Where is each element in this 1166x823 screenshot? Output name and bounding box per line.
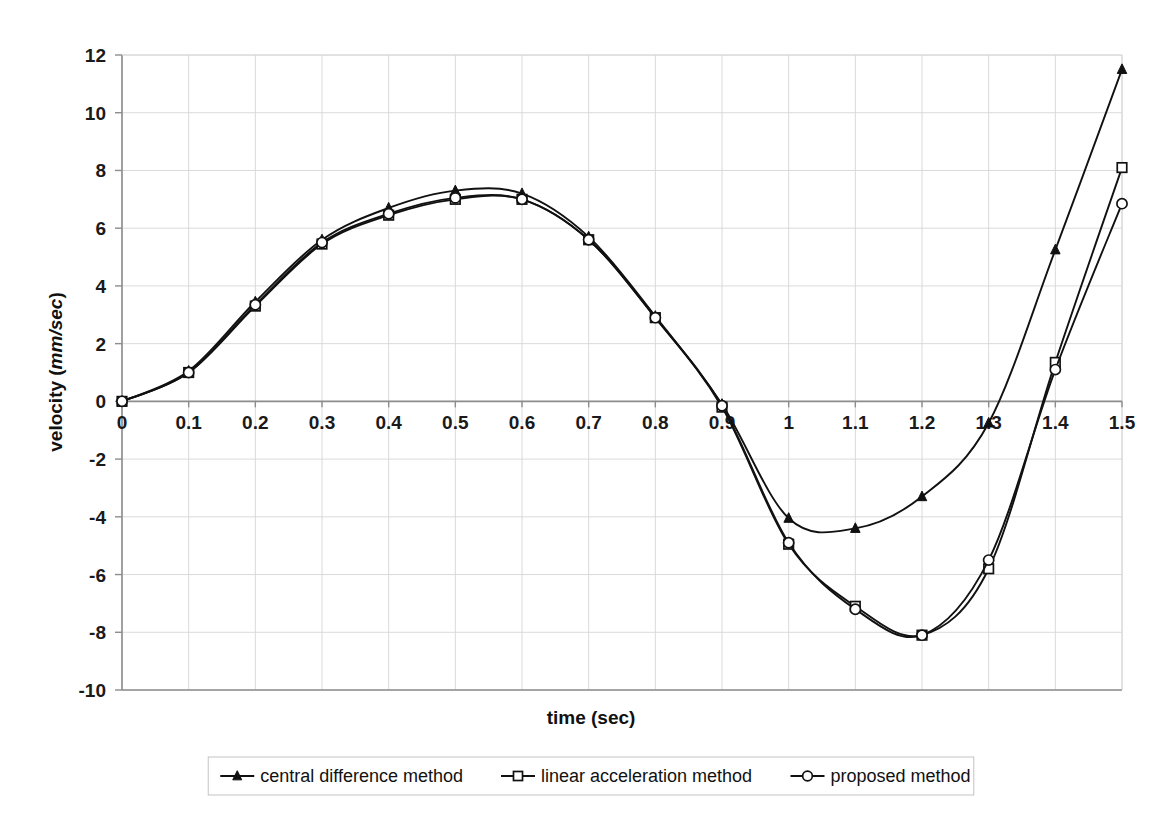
y-tick-label: -2 xyxy=(89,449,106,470)
y-tick-label: 4 xyxy=(95,276,106,297)
y-axis-title: velocity (mm/sec) xyxy=(45,292,66,451)
velocity-time-chart: 121086420-2-4-6-8-10 00.10.20.30.40.50.6… xyxy=(0,0,1166,823)
grid-lines xyxy=(122,55,1122,690)
x-tick-label: 1 xyxy=(783,412,794,433)
chart-legend: central difference methodlinear accelera… xyxy=(208,757,974,795)
x-tick-label: 0.5 xyxy=(442,412,469,433)
y-tick-label: 0 xyxy=(95,391,106,412)
marker-open-circle xyxy=(803,771,813,781)
marker-open-circle xyxy=(184,367,194,377)
marker-open-circle xyxy=(850,604,860,614)
marker-open-circle xyxy=(517,194,527,204)
marker-open-circle xyxy=(1117,199,1127,209)
chart-svg: 121086420-2-4-6-8-10 00.10.20.30.40.50.6… xyxy=(0,0,1166,823)
x-tick-label: 0 xyxy=(117,412,128,433)
marker-open-circle xyxy=(450,193,460,203)
axis-lines xyxy=(122,55,1122,690)
x-tick-label: 0.6 xyxy=(509,412,535,433)
y-axis-title-suffix: ) xyxy=(45,292,66,298)
marker-open-circle xyxy=(250,300,260,310)
x-tick-label: 1.5 xyxy=(1109,412,1136,433)
marker-open-circle xyxy=(917,630,927,640)
marker-filled-triangle xyxy=(1117,64,1127,74)
x-tick-label: 0.2 xyxy=(242,412,268,433)
x-tick-label: 0.4 xyxy=(375,412,402,433)
x-tick-label: 1.4 xyxy=(1042,412,1069,433)
marker-filled-triangle xyxy=(1051,244,1061,254)
data-series-layer xyxy=(117,64,1127,640)
y-tick-label: -4 xyxy=(89,507,106,528)
marker-open-square xyxy=(513,771,522,780)
x-tick-label: 0.1 xyxy=(175,412,202,433)
y-tick-label: 6 xyxy=(95,218,106,239)
marker-open-circle xyxy=(784,538,794,548)
y-axis-tick-labels: 121086420-2-4-6-8-10 xyxy=(79,45,122,701)
marker-open-circle xyxy=(717,401,727,411)
y-tick-label: -8 xyxy=(89,622,106,643)
y-tick-label: 8 xyxy=(95,160,106,181)
marker-open-circle xyxy=(584,235,594,245)
marker-open-circle xyxy=(1050,365,1060,375)
marker-open-circle xyxy=(384,209,394,219)
y-tick-label: -6 xyxy=(89,565,106,586)
y-tick-label: 12 xyxy=(85,45,106,66)
x-tick-label: 1.2 xyxy=(909,412,935,433)
marker-open-square xyxy=(1117,163,1127,173)
x-axis-tick-labels: 00.10.20.30.40.50.60.70.80.911.11.21.31.… xyxy=(117,401,1136,433)
x-axis-title: time (sec) xyxy=(547,707,636,728)
legend-item-label: central difference method xyxy=(260,766,463,786)
x-tick-label: 1.1 xyxy=(842,412,869,433)
y-tick-label: 10 xyxy=(85,103,106,124)
y-axis-title-unit: mm/sec xyxy=(45,298,66,369)
series-1 xyxy=(117,64,1127,533)
series-line xyxy=(122,195,1122,637)
x-tick-label: 0.7 xyxy=(575,412,601,433)
svg-text:velocity (mm/sec): velocity (mm/sec) xyxy=(45,292,66,451)
x-tick-label: 0.3 xyxy=(309,412,335,433)
y-tick-label: 2 xyxy=(95,334,106,355)
legend-item-label: linear acceleration method xyxy=(541,766,752,786)
series-line xyxy=(122,69,1122,532)
marker-open-circle xyxy=(317,238,327,248)
legend-item-label: proposed method xyxy=(831,766,971,786)
marker-open-circle xyxy=(650,313,660,323)
marker-open-circle xyxy=(117,396,127,406)
x-tick-label: 0.8 xyxy=(642,412,668,433)
y-axis-title-prefix: velocity ( xyxy=(45,369,66,452)
y-tick-label: -10 xyxy=(79,680,106,701)
marker-open-circle xyxy=(984,555,994,565)
marker-filled-triangle xyxy=(917,491,927,501)
